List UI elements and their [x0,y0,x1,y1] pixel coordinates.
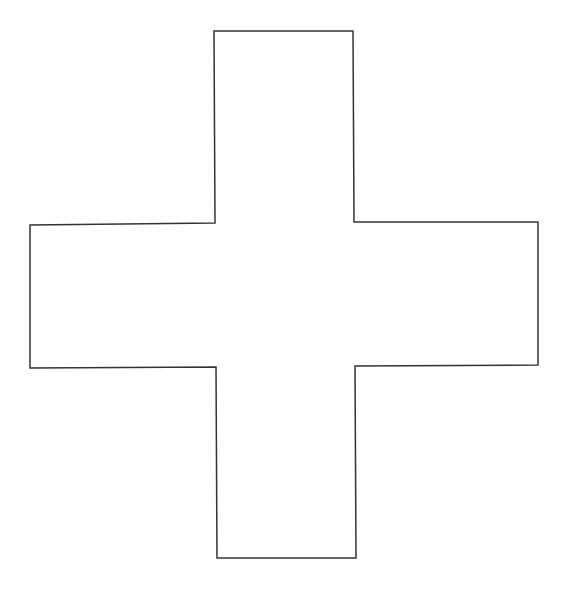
cross-shape [30,31,538,558]
diagram-canvas [0,0,569,598]
